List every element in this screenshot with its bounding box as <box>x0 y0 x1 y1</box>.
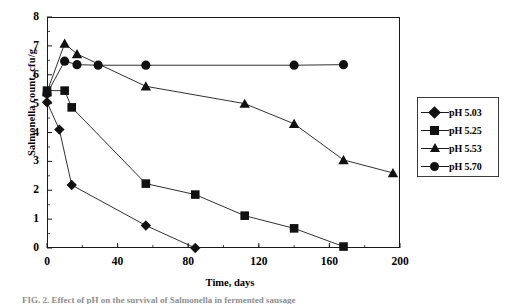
x-tick-120: 120 <box>239 256 279 268</box>
series-ph-5-70 <box>42 57 348 99</box>
y-tick-1: 1 <box>17 213 39 225</box>
figure-container: 012345678 04080120160200 Salmonella coun… <box>0 0 507 304</box>
legend-item-ph-5-25[interactable]: pH 5.25 <box>418 121 498 139</box>
y-axis-title: Salmonella count, cfu/g <box>26 18 37 188</box>
diamond-marker-icon <box>421 105 449 119</box>
legend-label: pH 5.53 <box>449 143 482 154</box>
series-ph-5-53 <box>42 39 398 178</box>
series-ph-5-03 <box>42 97 201 253</box>
figure-caption-text: FIG. 2. Effect of pH on the survival of … <box>22 296 352 304</box>
legend-label: pH 5.70 <box>449 161 482 172</box>
x-tick-160: 160 <box>309 256 349 268</box>
legend-item-ph-5-03[interactable]: pH 5.03 <box>418 103 498 121</box>
chart-legend: pH 5.03pH 5.25pH 5.53pH 5.70 <box>417 97 499 177</box>
figure-caption-cropped: FIG. 2. Effect of pH on the survival of … <box>22 296 352 304</box>
series-ph-5-25 <box>43 86 348 251</box>
legend-label: pH 5.03 <box>449 107 482 118</box>
x-axis-title: Time, days <box>160 277 300 288</box>
circle-marker-icon <box>421 159 449 173</box>
y-tick-0: 0 <box>17 242 39 254</box>
legend-item-ph-5-53[interactable]: pH 5.53 <box>418 139 498 157</box>
x-tick-200: 200 <box>380 256 420 268</box>
triangle-marker-icon <box>421 141 449 155</box>
x-tick-0: 0 <box>27 256 67 268</box>
x-tick-40: 40 <box>98 256 138 268</box>
legend-label: pH 5.25 <box>449 125 482 136</box>
square-marker-icon <box>421 123 449 137</box>
x-tick-80: 80 <box>168 256 208 268</box>
legend-item-ph-5-70[interactable]: pH 5.70 <box>418 157 498 175</box>
